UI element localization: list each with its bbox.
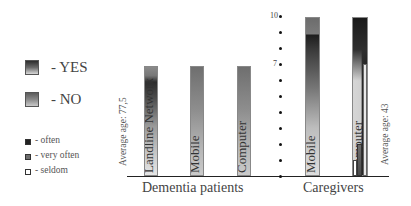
bar-label: Mobile (190, 135, 203, 173)
tick-dot (279, 159, 282, 162)
legend-no-label: - NO (51, 91, 81, 108)
legend-yes-swatch (25, 60, 39, 75)
legend-often-swatch (25, 139, 31, 145)
tick-dot (279, 111, 282, 114)
bar-dementia-landline: Landline Network (144, 66, 158, 176)
legend-very-often-swatch (25, 154, 31, 160)
subbar-computer-tall (363, 64, 367, 176)
tick-dot (279, 47, 282, 50)
tick-dot (279, 127, 282, 130)
bar-dementia-computer: Computer (237, 66, 251, 176)
average-age-caregivers: Average age: 43 (380, 103, 390, 165)
tick-dot (279, 175, 282, 178)
tick-dot (279, 63, 282, 66)
group-label-dementia: Dementia patients (142, 180, 243, 196)
subbar-computer-very-often (357, 144, 362, 176)
legend-no-swatch (25, 92, 39, 107)
legend-seldom-label: - seldom (35, 165, 68, 175)
tick-dot (279, 15, 282, 18)
legend-very-often-label: - very often (35, 150, 79, 160)
bar-label: Mobile (305, 135, 319, 173)
x-axis-baseline (127, 176, 389, 177)
tick-dot (279, 31, 282, 34)
tick-label-7: 7 (273, 59, 277, 68)
bar-dementia-mobile: Mobile (190, 66, 204, 176)
tick-dot (279, 95, 282, 98)
tick-dot (279, 79, 282, 82)
group-label-caregivers: Caregivers (303, 180, 364, 196)
bar-label: Computer (237, 121, 250, 173)
legend-often-label: - often (35, 135, 60, 145)
tick-dot (279, 143, 282, 146)
bar-caregivers-mobile: Mobile (305, 17, 320, 176)
bar-label: Landline Network (144, 78, 157, 173)
legend-seldom-swatch (25, 169, 31, 175)
legend-yes-label: - YES (51, 59, 88, 76)
average-age-dementia: Average age: 77,5 (118, 97, 128, 166)
tick-label-10: 10 (270, 11, 278, 20)
